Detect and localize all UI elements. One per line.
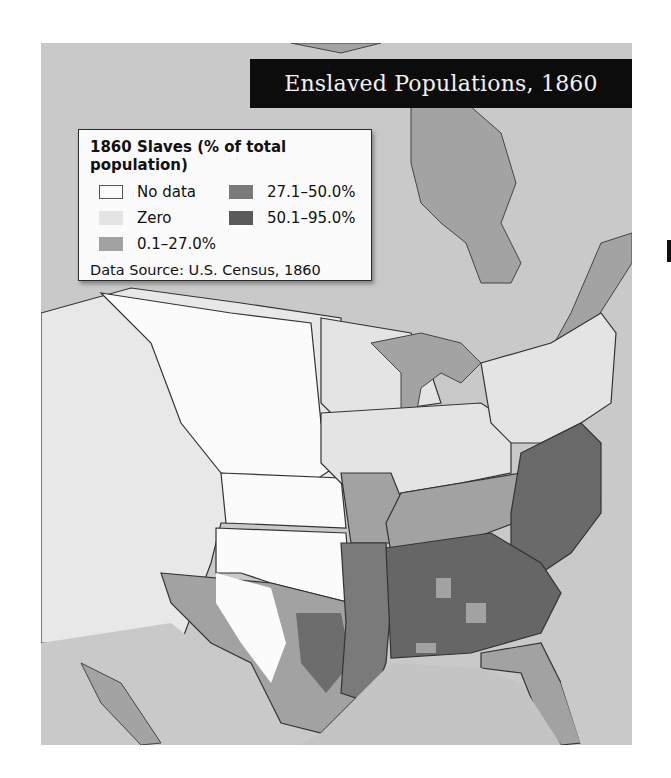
- legend: 1860 Slaves (% of total population) No d…: [78, 129, 372, 281]
- map-title: Enslaved Populations, 1860: [250, 59, 632, 108]
- legend-label: 0.1–27.0%: [137, 235, 216, 253]
- legend-item-no-data: No data: [90, 181, 220, 202]
- swatch-50-95: [229, 211, 253, 225]
- legend-label: 27.1–50.0%: [267, 183, 356, 201]
- legend-label: No data: [137, 183, 196, 201]
- swatch-0-27: [99, 237, 123, 251]
- swatch-zero: [99, 211, 123, 225]
- legend-item-27-50: 27.1–50.0%: [220, 181, 360, 202]
- legend-grid: No data 27.1–50.0% Zero 50.1–95.0% 0.1–2…: [90, 181, 361, 254]
- virginia-carolina-high: [511, 423, 601, 573]
- kansas: [221, 473, 346, 528]
- page-edge-mark: [667, 240, 671, 262]
- swatch-27-50: [229, 185, 253, 199]
- legend-item-0-27: 0.1–27.0%: [90, 233, 220, 254]
- data-source: Data Source: U.S. Census, 1860: [90, 262, 361, 278]
- legend-item-zero: Zero: [90, 207, 220, 228]
- legend-label: Zero: [137, 209, 172, 227]
- legend-title: 1860 Slaves (% of total population): [90, 138, 361, 174]
- swatch-no-data: [99, 185, 123, 199]
- legend-item-50-95: 50.1–95.0%: [220, 207, 360, 228]
- legend-label: 50.1–95.0%: [267, 209, 356, 227]
